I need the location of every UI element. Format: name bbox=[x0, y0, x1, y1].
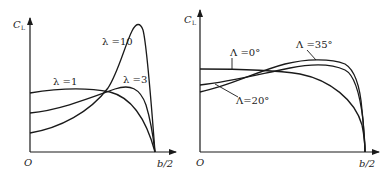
curve-lambda-1 bbox=[30, 89, 155, 152]
right-x-axis-end-label: b/2 bbox=[359, 158, 375, 169]
label-lambda-1: λ =1 bbox=[53, 76, 77, 87]
leader-sweep-20 bbox=[215, 84, 238, 97]
label-lambda-3: λ =3 bbox=[123, 74, 147, 85]
curve-lambda-10 bbox=[30, 24, 155, 152]
curve-lambda-3 bbox=[30, 87, 155, 152]
left-y-axis-label: C bbox=[13, 19, 21, 30]
label-sweep-0: Λ =0° bbox=[229, 47, 260, 58]
curve-sweep-20 bbox=[200, 65, 365, 152]
right-origin-label: O bbox=[196, 157, 204, 168]
right-y-axis-label: C bbox=[184, 14, 192, 25]
left-chart-taper-ratio: C L O b/2 λ =1 λ =3 λ =10 bbox=[13, 18, 176, 169]
right-chart-sweep-angle: C L O b/2 Λ =0° Λ=20° Λ =35° bbox=[184, 10, 379, 169]
left-y-axis-label-sub: L bbox=[21, 24, 25, 31]
label-lambda-10: λ =10 bbox=[102, 36, 133, 47]
left-origin-label: O bbox=[24, 157, 32, 168]
curve-sweep-35 bbox=[200, 60, 365, 152]
spanwise-lift-distribution-figure: C L O b/2 λ =1 λ =3 λ =10 C L O b/2 Λ =0… bbox=[0, 0, 389, 179]
label-sweep-35: Λ =35° bbox=[295, 39, 333, 50]
left-x-axis-end-label: b/2 bbox=[157, 158, 173, 169]
leader-sweep-35 bbox=[307, 50, 316, 60]
label-sweep-20: Λ=20° bbox=[235, 95, 269, 106]
right-y-axis-label-sub: L bbox=[192, 19, 196, 26]
